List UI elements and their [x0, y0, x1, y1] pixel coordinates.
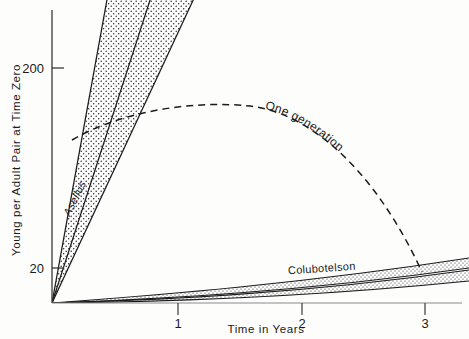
colubotelson-band-group: [52, 258, 469, 303]
one-generation-textpath: One generation: [264, 98, 347, 154]
x-tick-label-1: 1: [174, 316, 181, 331]
figure-canvas: 200 20 1 2 3 Time in Years Young per Adu…: [0, 0, 469, 339]
series-label-colubotelson: Colubotelson: [287, 260, 355, 277]
x-axis-title: Time in Years: [227, 323, 304, 335]
y-tick-label-200: 200: [22, 61, 44, 76]
chart-svg: 200 20 1 2 3 Time in Years Young per Adu…: [0, 0, 469, 339]
x-tick-label-3: 3: [421, 316, 428, 331]
y-tick-label-20: 20: [30, 261, 44, 276]
asellus-band-group: [52, 0, 196, 303]
series-label-one-generation: One generation: [264, 98, 347, 154]
y-axis-title: Young per Adult Pair at Time Zero: [10, 64, 22, 256]
